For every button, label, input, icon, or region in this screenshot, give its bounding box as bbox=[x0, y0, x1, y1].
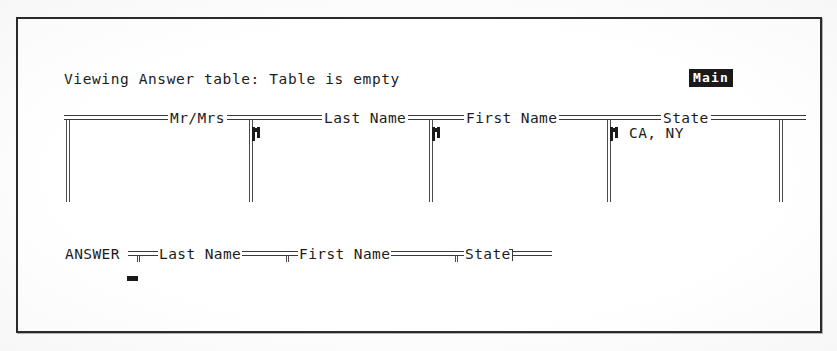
query-table-label[interactable]: ANSWER bbox=[64, 247, 121, 261]
answer-table-view[interactable]: Mr/Mrs Last Name First Name State CA, NY bbox=[64, 111, 806, 209]
status-message: Viewing Answer table: Table is empty bbox=[64, 72, 400, 87]
field-marker-state bbox=[610, 127, 619, 141]
query-endcap bbox=[509, 249, 513, 261]
query-field-first-name[interactable]: First Name bbox=[298, 247, 391, 261]
query-field-last-name[interactable]: Last Name bbox=[158, 247, 242, 261]
column-header-mr-mrs[interactable]: Mr/Mrs bbox=[168, 111, 227, 125]
query-tick-2 bbox=[286, 255, 289, 262]
column-header-last-name[interactable]: Last Name bbox=[322, 111, 408, 125]
field-marker-last-name bbox=[252, 127, 261, 141]
cell-value-state[interactable]: CA, NY bbox=[629, 126, 684, 140]
column-header-first-name[interactable]: First Name bbox=[464, 111, 559, 125]
text-cursor bbox=[127, 276, 138, 281]
screen-frame: Viewing Answer table: Table is empty Mai… bbox=[16, 17, 822, 333]
query-tick-3 bbox=[455, 255, 458, 262]
field-marker-first-name bbox=[432, 127, 441, 141]
mode-badge[interactable]: Main bbox=[689, 69, 733, 87]
query-line[interactable]: ANSWER Last Name First Name State bbox=[64, 247, 564, 281]
column-separator-right bbox=[779, 120, 783, 202]
query-field-state[interactable]: State bbox=[464, 247, 512, 261]
query-tick-1 bbox=[137, 255, 140, 262]
column-separator-left bbox=[66, 120, 70, 202]
column-header-state[interactable]: State bbox=[661, 111, 711, 125]
